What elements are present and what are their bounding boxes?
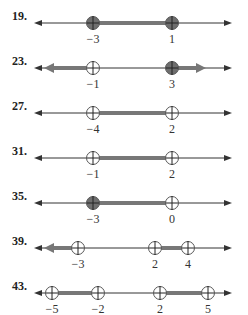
number-line-row: 23.−13 bbox=[0, 48, 248, 93]
number-line: −13 bbox=[0, 48, 248, 93]
ray-arrow-right-icon bbox=[196, 63, 206, 73]
tick-label: −5 bbox=[46, 302, 59, 315]
arrow-left-icon bbox=[34, 20, 42, 26]
tick-label: −2 bbox=[92, 302, 105, 315]
tick-label: 5 bbox=[205, 302, 211, 315]
tick-label: 2 bbox=[169, 167, 175, 181]
number-line: −31 bbox=[0, 3, 248, 48]
arrow-right-icon bbox=[224, 65, 232, 71]
number-line-row: 31.−12 bbox=[0, 138, 248, 183]
number-line-row: 35.−30 bbox=[0, 183, 248, 228]
tick-label: −3 bbox=[72, 257, 85, 271]
tick-label: 2 bbox=[169, 122, 175, 136]
number-line: −30 bbox=[0, 183, 248, 228]
arrow-left-icon bbox=[34, 290, 42, 296]
tick-label: 1 bbox=[169, 32, 175, 46]
arrow-right-icon bbox=[224, 110, 232, 116]
number-line-row: 27.−42 bbox=[0, 93, 248, 138]
arrow-left-icon bbox=[34, 110, 42, 116]
ray-arrow-left-icon bbox=[44, 243, 54, 253]
arrow-right-icon bbox=[224, 155, 232, 161]
arrow-left-icon bbox=[34, 200, 42, 206]
tick-label: −1 bbox=[87, 167, 100, 181]
arrow-left-icon bbox=[34, 65, 42, 71]
arrow-right-icon bbox=[224, 20, 232, 26]
arrow-right-icon bbox=[224, 290, 232, 296]
number-line: −12 bbox=[0, 138, 248, 183]
tick-label: 3 bbox=[169, 77, 175, 91]
tick-label: −1 bbox=[87, 77, 100, 91]
tick-label: 2 bbox=[157, 302, 163, 315]
tick-label: −3 bbox=[87, 212, 100, 226]
number-line-row: 43.−5−225 bbox=[0, 273, 248, 315]
tick-label: 4 bbox=[185, 257, 191, 271]
tick-label: 2 bbox=[152, 257, 158, 271]
arrow-left-icon bbox=[34, 155, 42, 161]
number-line-row: 19.−31 bbox=[0, 3, 248, 48]
tick-label: −4 bbox=[87, 122, 100, 136]
number-line: −42 bbox=[0, 93, 248, 138]
arrow-right-icon bbox=[224, 245, 232, 251]
number-line: −324 bbox=[0, 228, 248, 273]
tick-label: −3 bbox=[87, 32, 100, 46]
ray-arrow-left-icon bbox=[44, 63, 54, 73]
arrow-right-icon bbox=[224, 200, 232, 206]
number-line-row: 39.−324 bbox=[0, 228, 248, 273]
tick-label: 0 bbox=[169, 212, 175, 226]
number-line: −5−225 bbox=[0, 273, 248, 315]
arrow-left-icon bbox=[34, 245, 42, 251]
